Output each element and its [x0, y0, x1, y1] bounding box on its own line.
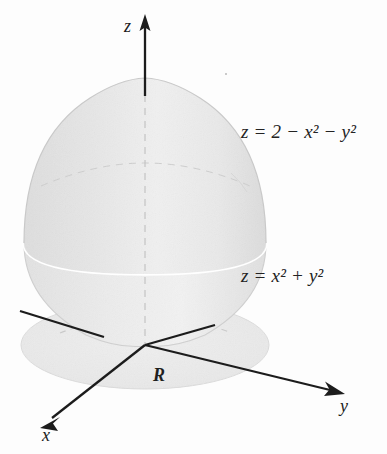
figure-canvas: z = 2 − x² − y² z = x² + y² z y x R [0, 0, 387, 454]
scan-speck [225, 73, 227, 75]
solid-diagram-svg [0, 0, 387, 454]
z-axis-label: z [124, 16, 131, 37]
upper-eq-text: z = 2 − x² − y² [241, 121, 356, 142]
lower-surface-equation: z = x² + y² [241, 265, 324, 287]
upper-surface-equation: z = 2 − x² − y² [241, 121, 356, 143]
x-axis-label: x [42, 425, 50, 446]
region-label-R: R [153, 365, 165, 386]
lower-eq-text: z = x² + y² [241, 265, 324, 286]
y-axis-label: y [340, 396, 348, 417]
